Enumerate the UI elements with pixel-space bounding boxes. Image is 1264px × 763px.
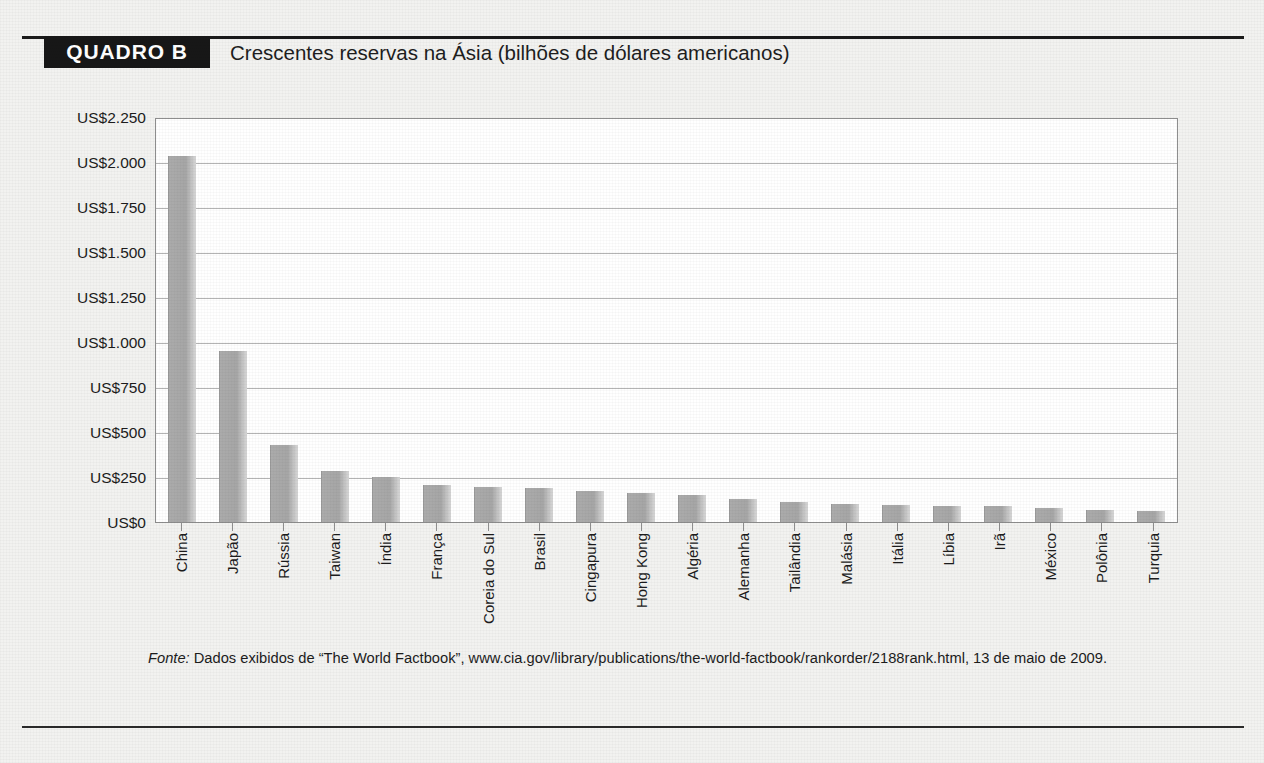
bar-slot [820, 119, 871, 522]
tick-slot [206, 523, 257, 531]
bar [678, 495, 706, 522]
x-tick-mark [385, 523, 386, 531]
x-tick-label: Turquia [1144, 533, 1161, 583]
x-label-slot: Malásia [820, 533, 871, 643]
bar-slot [564, 119, 615, 522]
x-label-slot: Taiwan [308, 533, 359, 643]
y-tick-label: US$1.250 [46, 289, 146, 307]
source-label: Fonte: [148, 650, 190, 666]
x-tick-mark [846, 523, 847, 531]
x-tick-mark [181, 523, 182, 531]
tick-slot [871, 523, 922, 531]
bar [219, 351, 247, 522]
tick-slot [1025, 523, 1076, 531]
bar-slot [769, 119, 820, 522]
bar [1035, 508, 1063, 522]
bar-slot [462, 119, 513, 522]
bar-slot [513, 119, 564, 522]
x-tick-mark [641, 523, 642, 531]
tick-slot [411, 523, 462, 531]
bar [1086, 510, 1114, 522]
bar-slot [922, 119, 973, 522]
x-tick-label: Brasil [530, 533, 547, 571]
x-label-slot: Turquia [1127, 533, 1178, 643]
x-tick-mark [539, 523, 540, 531]
x-tick-label: Irã [991, 533, 1008, 551]
x-axis-labels: ChinaJapãoRússiaTaiwanÍndiaFrançaCoreia … [155, 533, 1178, 643]
x-label-slot: França [411, 533, 462, 643]
x-tick-label: Taiwan [326, 533, 343, 580]
x-label-slot: Rússia [257, 533, 308, 643]
x-tick-mark [692, 523, 693, 531]
source-text: Dados exibidos de “The World Factbook”, … [190, 650, 1107, 666]
x-tick-label: França [428, 533, 445, 580]
y-tick-label: US$1.750 [46, 199, 146, 217]
bar-slot [207, 119, 258, 522]
x-label-slot: Polônia [1076, 533, 1127, 643]
x-label-slot: Itália [871, 533, 922, 643]
x-label-slot: Índia [360, 533, 411, 643]
x-label-slot: Alemanha [718, 533, 769, 643]
y-tick-label: US$750 [46, 379, 146, 397]
tick-slot [308, 523, 359, 531]
tick-slot [820, 523, 871, 531]
bar [984, 506, 1012, 522]
x-tick-label: Índia [377, 533, 394, 566]
bar [780, 502, 808, 522]
bar [882, 505, 910, 522]
tick-slot [462, 523, 513, 531]
y-tick-label: US$250 [46, 469, 146, 487]
tick-slot [922, 523, 973, 531]
y-tick-label: US$1.000 [46, 334, 146, 352]
x-tick-label: Cingapura [581, 533, 598, 602]
x-label-slot: Algéria [667, 533, 718, 643]
tick-slot [769, 523, 820, 531]
x-tick-label: Líbia [939, 533, 956, 566]
x-tick-mark [1050, 523, 1051, 531]
bar [321, 471, 349, 522]
y-tick-label: US$2.250 [46, 109, 146, 127]
y-tick-label: US$2.000 [46, 154, 146, 172]
x-label-slot: Hong Kong [615, 533, 666, 643]
tick-slot [257, 523, 308, 531]
x-tick-label: Alemanha [735, 533, 752, 601]
bar-slot [1075, 119, 1126, 522]
tick-slot [615, 523, 666, 531]
x-label-slot: China [155, 533, 206, 643]
bar-slot [360, 119, 411, 522]
bar [831, 504, 859, 522]
x-tick-mark [1101, 523, 1102, 531]
bar-slot [411, 119, 462, 522]
bar-slot [615, 119, 666, 522]
x-tick-mark [999, 523, 1000, 531]
bar-slot [258, 119, 309, 522]
bar [576, 491, 604, 523]
bar-slot [309, 119, 360, 522]
y-axis-labels: US$0US$250US$500US$750US$1.000US$1.250US… [46, 118, 146, 523]
x-tick-mark [334, 523, 335, 531]
x-tick-mark [488, 523, 489, 531]
x-label-slot: Brasil [513, 533, 564, 643]
bar-slot [871, 119, 922, 522]
bar-slot [718, 119, 769, 522]
x-label-slot: México [1025, 533, 1076, 643]
tick-slot [1127, 523, 1178, 531]
bar [372, 477, 400, 522]
x-label-slot: Coreia do Sul [462, 533, 513, 643]
x-label-slot: Irã [974, 533, 1025, 643]
footer-rule [22, 726, 1244, 728]
bar [423, 485, 451, 522]
bar [1137, 511, 1165, 522]
bar-slot [973, 119, 1024, 522]
tick-slot [1076, 523, 1127, 531]
bar-slot [1024, 119, 1075, 522]
figure-panel: QUADRO B Crescentes reservas na Ásia (bi… [0, 0, 1264, 763]
tick-slot [667, 523, 718, 531]
x-label-slot: Líbia [922, 533, 973, 643]
x-tick-mark [283, 523, 284, 531]
bar-slot [156, 119, 207, 522]
x-tick-mark [232, 523, 233, 531]
x-tick-label: Algéria [684, 533, 701, 580]
bar [474, 487, 502, 522]
x-tick-label: Japão [223, 533, 240, 574]
